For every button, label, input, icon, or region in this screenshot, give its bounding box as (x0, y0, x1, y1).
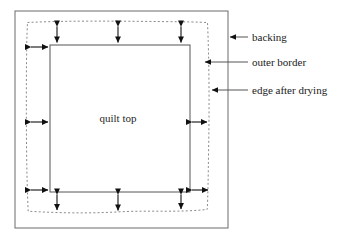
callout-label-outer-border: outer border (252, 56, 306, 68)
quilt-top-label: quilt top (100, 112, 137, 124)
figure-canvas: quilt top backing outer border edge afte… (0, 0, 340, 240)
callout-label-edge-after-drying: edge after drying (252, 84, 328, 96)
callout-label-backing: backing (252, 31, 287, 43)
callout-leader-group (205, 37, 248, 90)
quilt-diagram: quilt top backing outer border edge afte… (0, 0, 340, 240)
